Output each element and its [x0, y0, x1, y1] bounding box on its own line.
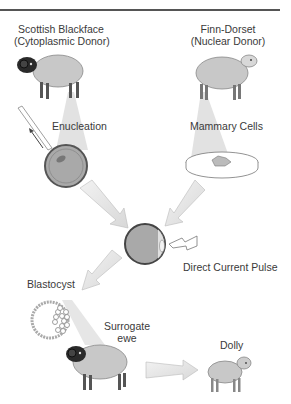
blastocyst-label: Blastocyst	[27, 278, 75, 290]
finn-dorset-sheep-icon	[196, 55, 257, 100]
finn-dorset-label: Finn-Dorset (Nuclear Donor)	[186, 23, 270, 47]
egg-cell-icon	[45, 145, 87, 187]
surrogate-ewe-sheep-icon	[66, 345, 127, 390]
lightning-bolt-icon	[169, 236, 197, 250]
surrogate-line2: ewe	[102, 332, 152, 344]
arrow-fusion-to-blastocyst	[82, 250, 122, 290]
arrow-egg-to-fusion	[80, 180, 128, 228]
petri-dish-icon	[186, 152, 258, 178]
nuclear-donor-role: (Nuclear Donor)	[186, 35, 270, 47]
mammary-cells-label: Mammary Cells	[190, 120, 263, 132]
blastocyst-icon	[32, 302, 70, 338]
cytoplasmic-donor-name: Scottish Blackface	[14, 23, 108, 35]
dolly-lamb-icon	[208, 357, 251, 392]
arrow-surrogate-to-dolly	[146, 360, 198, 380]
cytoplasmic-donor-role: (Cytoplasmic Donor)	[14, 35, 108, 47]
nuclear-donor-name: Finn-Dorset	[186, 23, 270, 35]
arrow-dish-to-fusion	[165, 180, 205, 226]
surrogate-ewe-label: Surrogate ewe	[102, 320, 152, 344]
pipette-icon	[18, 106, 52, 150]
fused-cell-icon	[125, 224, 165, 264]
surrogate-line1: Surrogate	[102, 320, 152, 332]
dolly-label: Dolly	[220, 339, 243, 351]
enucleation-label: Enucleation	[52, 120, 107, 132]
direct-current-pulse-label: Direct Current Pulse	[183, 261, 278, 273]
scottish-blackface-label: Scottish Blackface (Cytoplasmic Donor)	[14, 23, 108, 47]
